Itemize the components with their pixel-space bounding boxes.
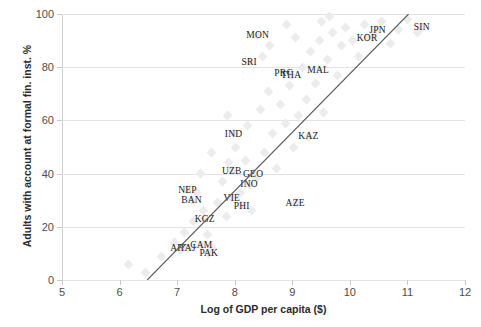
x-tick-mark-6 <box>120 280 121 285</box>
point-label-sri: SRI <box>241 57 256 67</box>
point-label-uzb: UZB <box>222 166 242 176</box>
y-tick-label-0: 0 <box>10 274 54 286</box>
data-point <box>310 78 320 88</box>
y-tick-mark-40 <box>57 174 62 175</box>
data-point <box>256 105 266 115</box>
data-point <box>394 25 404 35</box>
data-point <box>315 36 325 46</box>
data-point <box>340 22 350 32</box>
x-axis-title: Log of GDP per capita ($) <box>62 303 465 315</box>
point-label-ino: INO <box>240 179 258 189</box>
y-tick-label-80: 80 <box>10 61 54 73</box>
gridline-y-20 <box>62 227 465 228</box>
x-tick-label-5: 5 <box>47 286 77 298</box>
data-point <box>263 86 273 96</box>
data-point <box>293 110 303 120</box>
data-point <box>212 198 222 208</box>
data-point <box>302 94 312 104</box>
data-point <box>195 169 205 179</box>
data-point <box>332 70 342 80</box>
data-point <box>319 107 329 117</box>
point-label-mon: MON <box>246 30 269 40</box>
y-tick-mark-100 <box>57 14 62 15</box>
x-tick-label-10: 10 <box>335 286 365 298</box>
data-point <box>288 142 298 152</box>
point-label-aze: AZE <box>286 198 305 208</box>
gridline-y-60 <box>62 120 465 121</box>
y-tick-mark-60 <box>57 120 62 121</box>
data-point <box>323 54 333 64</box>
point-label-nep: NEP <box>178 185 197 195</box>
data-point <box>264 41 274 51</box>
data-point <box>179 227 189 237</box>
x-tick-label-12: 12 <box>450 286 480 298</box>
data-point <box>240 155 250 165</box>
data-point <box>207 147 217 157</box>
data-point <box>231 142 241 152</box>
data-point <box>359 20 369 30</box>
data-point <box>242 121 252 131</box>
point-label-sin: SIN <box>414 22 430 32</box>
data-point <box>223 110 233 120</box>
point-label-phi: PHI <box>234 201 250 211</box>
data-point <box>267 129 277 139</box>
point-label-mal: MAL <box>307 65 329 75</box>
point-label-kaz: KAZ <box>298 131 318 141</box>
data-point <box>221 211 231 221</box>
data-point <box>217 177 227 187</box>
gridline-y-40 <box>62 174 465 175</box>
x-tick-label-6: 6 <box>105 286 135 298</box>
y-tick-label-100: 100 <box>10 8 54 20</box>
point-label-kgz: KGZ <box>195 214 215 224</box>
point-label-pak: PAK <box>199 248 218 258</box>
x-tick-mark-12 <box>465 280 466 285</box>
data-point <box>306 46 316 56</box>
y-tick-label-40: 40 <box>10 168 54 180</box>
data-point <box>354 52 364 62</box>
point-label-ban: BAN <box>181 195 202 205</box>
gridline-y-80 <box>62 67 465 68</box>
point-label-ind: IND <box>225 129 243 139</box>
point-label-geo: GEO <box>243 169 263 179</box>
x-tick-mark-5 <box>62 280 63 285</box>
data-point <box>123 259 133 269</box>
point-label-tha: THA <box>281 70 301 80</box>
gridline-y-0 <box>62 280 465 281</box>
x-tick-label-8: 8 <box>220 286 250 298</box>
data-point <box>336 41 346 51</box>
y-tick-label-20: 20 <box>10 221 54 233</box>
data-point <box>290 33 300 43</box>
data-point <box>284 81 294 91</box>
data-point <box>316 17 326 27</box>
data-point <box>141 267 151 277</box>
data-point <box>328 28 338 38</box>
x-tick-mark-10 <box>350 280 351 285</box>
data-point <box>385 38 395 48</box>
x-tick-label-9: 9 <box>277 286 307 298</box>
x-tick-mark-7 <box>177 280 178 285</box>
x-tick-mark-9 <box>292 280 293 285</box>
y-tick-label-60: 60 <box>10 114 54 126</box>
x-tick-label-7: 7 <box>162 286 192 298</box>
y-tick-mark-20 <box>57 227 62 228</box>
data-point <box>271 163 281 173</box>
point-label-jpn: JPN <box>369 25 385 35</box>
data-point <box>402 14 412 24</box>
data-point <box>156 251 166 261</box>
x-tick-label-11: 11 <box>392 286 422 298</box>
data-point <box>282 20 292 30</box>
y-axis-title: Adults with account at formal fin. inst.… <box>21 21 33 271</box>
scatter-chart: Adults with account at formal fin. inst.… <box>0 0 481 327</box>
y-tick-mark-80 <box>57 67 62 68</box>
x-tick-mark-8 <box>235 280 236 285</box>
data-point <box>202 230 212 240</box>
gridline-y-100 <box>62 14 465 15</box>
data-point <box>260 147 270 157</box>
plot-area: MONSRIPRCTHAMALKORJPNSINKAZINDUZBGEOINON… <box>62 14 465 280</box>
data-point <box>257 52 267 62</box>
x-tick-mark-11 <box>407 280 408 285</box>
data-point <box>276 99 286 109</box>
